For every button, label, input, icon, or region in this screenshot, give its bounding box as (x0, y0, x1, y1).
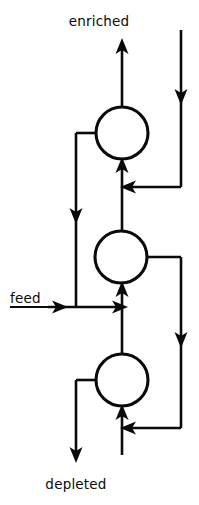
stage-bottom-circle (96, 354, 148, 406)
cascade-diagram: enriched feed depleted (0, 0, 199, 505)
stage-middle-circle (95, 231, 147, 283)
feed-label: feed (10, 290, 41, 306)
stage-top-circle (96, 107, 148, 159)
cascade-diagram-canvas: enriched feed depleted (0, 0, 199, 505)
enriched-label: enriched (69, 13, 130, 29)
depleted-label: depleted (45, 476, 106, 492)
